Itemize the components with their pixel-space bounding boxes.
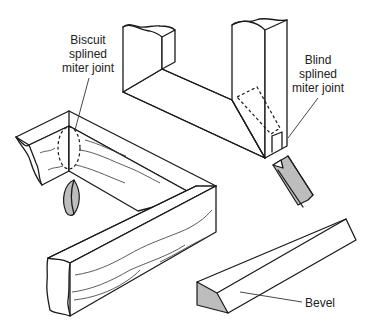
label-blind-line1: Blind	[305, 53, 332, 67]
miter-joint-diagram: Biscuit splined miter joint Blind spline…	[0, 0, 377, 335]
u-frame-assembly	[123, 19, 287, 158]
blind-spline-piece	[273, 156, 313, 207]
label-biscuit-line2: splined	[69, 47, 107, 61]
label-blind-line2: splined	[299, 67, 337, 81]
label-biscuit-line1: Biscuit	[70, 33, 106, 47]
l-frame-assembly	[16, 111, 216, 316]
label-blind: Blind splined miter joint	[288, 53, 345, 138]
label-bevel-text: Bevel	[305, 296, 335, 310]
l-frame-board-end	[47, 258, 70, 316]
leader-blind	[288, 98, 318, 138]
label-biscuit-line3: miter joint	[62, 61, 115, 75]
label-bevel: Bevel	[240, 292, 335, 310]
label-blind-line3: miter joint	[292, 81, 345, 95]
